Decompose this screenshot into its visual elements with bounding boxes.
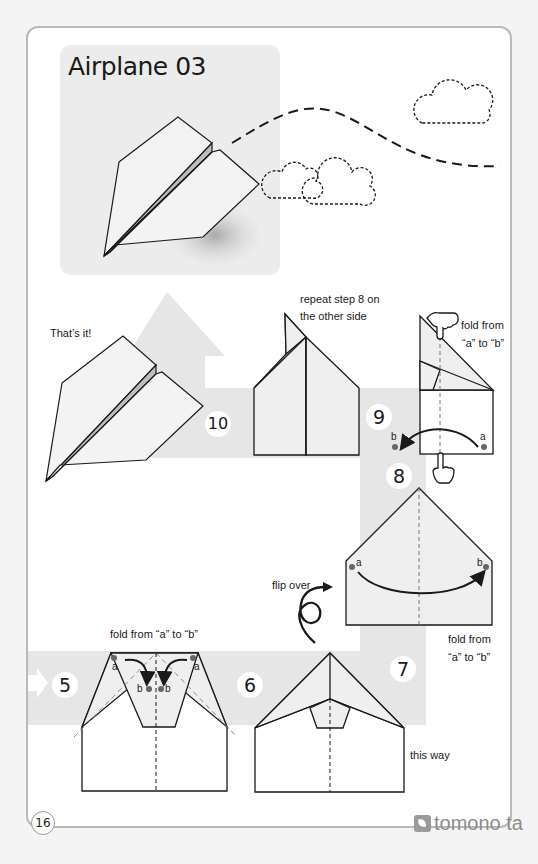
step-7-note-line1: fold from: [448, 632, 491, 647]
step-number-9: 9: [366, 404, 392, 430]
marker-a: a: [194, 660, 200, 674]
marker-b: b: [137, 682, 143, 696]
step-number-5: 5: [52, 672, 78, 698]
marker-a: a: [480, 430, 486, 444]
cloud-icon: [414, 80, 493, 123]
thats-it-label: That’s it!: [50, 326, 91, 341]
step-9-note-line2: “a” to “b”: [462, 336, 504, 351]
brand-icon: [414, 815, 431, 832]
diagram-canvas: [0, 0, 538, 864]
step-7-note-line3: this way: [410, 748, 450, 763]
step-10-note-line2: the other side: [300, 309, 367, 324]
step-10-diagram: [254, 314, 359, 455]
step-7-note-line2: “a” to “b”: [448, 650, 490, 665]
step-number-6: 6: [237, 672, 263, 698]
step-10-note-line1: repeat step 8 on: [300, 292, 380, 307]
step-5-instruction: fold from “a” to “b”: [110, 627, 198, 642]
hand-pointer-icon: [433, 453, 454, 483]
brand-logo: tomono ta: [414, 812, 523, 835]
marker-b: b: [165, 682, 171, 696]
step-number-7: 7: [390, 656, 416, 682]
marker-b: b: [391, 430, 397, 444]
step-number-10: 10: [205, 411, 231, 437]
marker-a: a: [112, 660, 118, 674]
page-number: 16: [31, 811, 55, 835]
step-9-note-line1: fold from: [461, 318, 504, 333]
cloud-icon: [262, 158, 376, 206]
step-number-8: 8: [386, 463, 412, 489]
brand-name: tomono ta: [434, 812, 523, 835]
step-path-band: [28, 292, 426, 725]
marker-a: a: [356, 556, 362, 570]
flip-over-label: flip over: [272, 578, 311, 593]
marker-b: b: [477, 556, 483, 570]
